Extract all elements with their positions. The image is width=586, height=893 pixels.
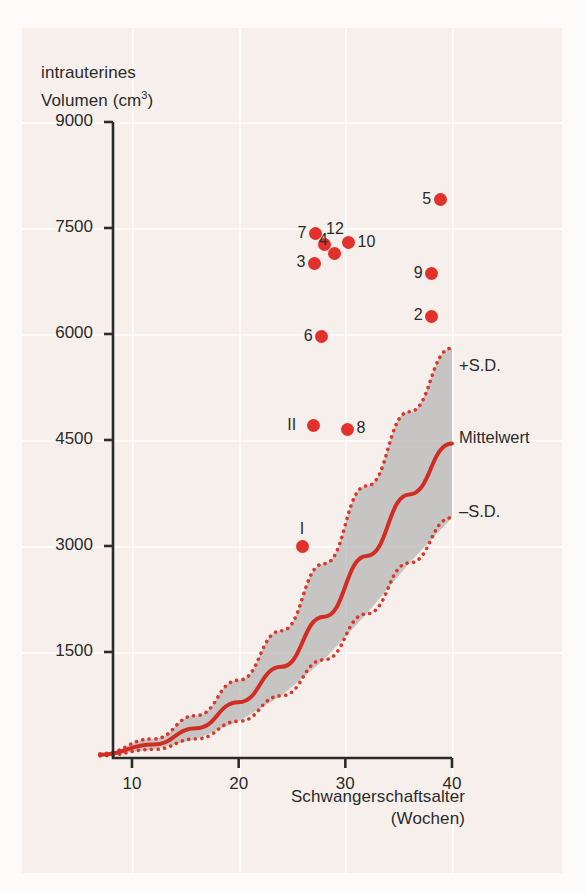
x-axis-tick-label: 20 — [219, 774, 259, 794]
y-axis-tick-label: 3000 — [27, 535, 93, 555]
mean-label: Mittelwert — [459, 428, 530, 447]
data-point-label: 2 — [414, 306, 423, 324]
x-axis-tick-label: 30 — [325, 774, 365, 794]
data-point-label: 7 — [297, 224, 306, 242]
minus-sd-label: –S.D. — [459, 502, 500, 521]
data-point — [341, 423, 354, 436]
data-point-label: I — [300, 520, 304, 538]
y-axis-title: intrauterinesVolumen (cm3) — [41, 62, 153, 112]
plus-sd-label: +S.D. — [459, 356, 501, 375]
data-point-label: II — [287, 416, 296, 434]
data-point-label: 4 — [319, 231, 328, 249]
y-axis-title-line2-end: ) — [148, 91, 154, 110]
y-axis-title-line2: Volumen (cm — [41, 91, 141, 110]
sd-band — [100, 348, 452, 756]
data-point — [434, 193, 447, 206]
y-axis-tick-label: 6000 — [27, 323, 93, 343]
y-axis-title-line1: intrauterines — [41, 63, 136, 82]
data-point-label: 12 — [326, 220, 344, 238]
x-axis-title-line2: (Wochen) — [391, 809, 465, 828]
y-axis-tick-label: 4500 — [27, 429, 93, 449]
x-axis-tick-label: 40 — [432, 774, 472, 794]
data-point — [308, 257, 321, 270]
y-axis-tick-label: 9000 — [27, 111, 93, 131]
data-point-label: 6 — [304, 327, 313, 345]
data-point-label: 10 — [358, 233, 376, 251]
data-point-label: 8 — [356, 419, 365, 437]
data-point — [425, 310, 438, 323]
data-point — [296, 540, 309, 553]
y-axis-tick-label: 1500 — [27, 641, 93, 661]
data-point — [328, 247, 341, 260]
data-point-label: 3 — [296, 253, 305, 271]
x-axis-tick-label: 10 — [112, 774, 152, 794]
data-point-label: 5 — [422, 190, 431, 208]
y-axis-tick-label: 7500 — [27, 217, 93, 237]
data-point-label: 9 — [414, 264, 423, 282]
